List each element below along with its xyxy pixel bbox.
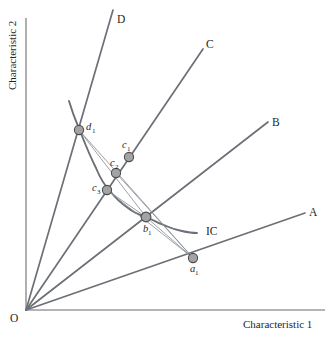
diagram-canvas: A B C D IC d 1 c 1 c 2 c 3 b bbox=[0, 0, 330, 337]
point-label-a1-sub: 1 bbox=[195, 269, 199, 277]
point-label-c1: c 1 bbox=[122, 139, 131, 153]
point-a1 bbox=[188, 253, 197, 262]
point-c1 bbox=[124, 152, 133, 161]
point-label-c3-sub: 3 bbox=[97, 188, 101, 196]
point-d1 bbox=[74, 125, 83, 134]
point-label-c1-sub: 1 bbox=[127, 145, 131, 153]
point-label-b1-sub: 1 bbox=[148, 229, 152, 237]
segment-c3-b1 bbox=[107, 190, 146, 217]
segment-c3-a1 bbox=[107, 190, 193, 258]
point-c3 bbox=[102, 185, 111, 194]
ray-label-b: B bbox=[272, 116, 280, 128]
point-label-a1: a 1 bbox=[190, 263, 199, 277]
x-axis-title: Characteristic 1 bbox=[243, 318, 312, 330]
characteristics-diagram: A B C D IC d 1 c 1 c 2 c 3 b bbox=[0, 0, 330, 337]
ray-label-a: A bbox=[309, 206, 318, 218]
point-label-c3: c 3 bbox=[92, 182, 101, 196]
ray-label-c: C bbox=[206, 38, 214, 50]
ic-label: IC bbox=[206, 225, 218, 237]
point-label-b1: b 1 bbox=[143, 223, 152, 237]
point-b1 bbox=[141, 212, 151, 222]
origin-label: O bbox=[10, 312, 18, 324]
segment-c2-a1 bbox=[116, 173, 193, 258]
ray-label-d: D bbox=[117, 13, 125, 25]
point-label-c2-sub: 2 bbox=[115, 163, 119, 171]
y-axis-title: Characteristic 2 bbox=[6, 21, 18, 90]
segment-b1-a1 bbox=[146, 217, 193, 258]
point-label-d1: d 1 bbox=[86, 121, 96, 135]
point-label-c2: c 2 bbox=[110, 157, 119, 171]
point-label-d1-sub: 1 bbox=[92, 127, 96, 135]
ray-c bbox=[26, 49, 203, 310]
ray-d bbox=[26, 10, 113, 310]
